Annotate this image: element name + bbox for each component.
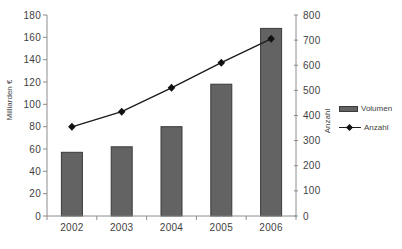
left-axis-tick-label: 40 (29, 166, 41, 177)
right-axis-tick-label: 700 (303, 35, 321, 46)
right-axis-title: Anzahl (323, 109, 332, 133)
x-axis-label: 2002 (60, 222, 84, 233)
left-axis-tick-label: 180 (23, 10, 41, 21)
right-axis-tick-label: 100 (303, 185, 321, 196)
bar-2006 (261, 28, 282, 216)
anzahl-line (72, 39, 271, 127)
right-axis-tick-label: 0 (303, 211, 309, 222)
legend-label-anzahl: Anzahl (364, 123, 388, 132)
left-axis-tick-label: 20 (29, 188, 41, 199)
right-axis-tick-label: 600 (303, 60, 321, 71)
left-axis-title: Milliarden € (5, 80, 14, 121)
left-axis-tick-label: 80 (29, 121, 41, 132)
x-axis-label: 2003 (110, 222, 134, 233)
chart-container: 0204060801001201401601800100200300400500… (0, 0, 402, 249)
right-axis-tick-label: 300 (303, 135, 321, 146)
left-axis-tick-label: 120 (23, 77, 41, 88)
bar-2002 (61, 152, 82, 216)
left-axis-tick-label: 160 (23, 32, 41, 43)
legend-item-volumen: Volumen (339, 99, 392, 118)
left-axis-tick-label: 100 (23, 99, 41, 110)
anzahl-marker-2005 (218, 59, 226, 67)
left-axis-tick-label: 60 (29, 144, 41, 155)
left-axis-tick-label: 0 (35, 211, 41, 222)
anzahl-marker-2003 (118, 108, 126, 116)
legend: Volumen Anzahl (339, 99, 392, 137)
volumen-bar-swatch (339, 106, 358, 112)
right-axis-tick-label: 500 (303, 85, 321, 96)
anzahl-marker-2002 (68, 123, 76, 131)
x-axis-label: 2006 (259, 222, 283, 233)
left-axis-tick-label: 140 (23, 54, 41, 65)
x-axis-label: 2005 (210, 222, 234, 233)
legend-label-volumen: Volumen (361, 104, 392, 113)
x-axis-label: 2004 (160, 222, 184, 233)
right-axis-tick-label: 200 (303, 160, 321, 171)
bar-2005 (211, 84, 232, 216)
diamond-marker-icon (346, 124, 353, 131)
legend-item-anzahl: Anzahl (339, 118, 392, 137)
anzahl-marker-2004 (168, 84, 176, 92)
bar-2004 (161, 127, 182, 216)
right-axis-tick-label: 800 (303, 10, 321, 21)
anzahl-line-swatch (339, 123, 361, 132)
bar-2003 (111, 147, 132, 216)
right-axis-tick-label: 400 (303, 110, 321, 121)
